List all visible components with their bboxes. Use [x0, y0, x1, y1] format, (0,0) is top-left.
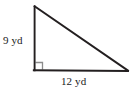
triangle-side-horizontal-leg	[34, 70, 128, 71]
dimension-label-horizontal-leg: 12 yd	[61, 75, 86, 87]
right-angle-marker-icon	[36, 63, 43, 70]
triangle-side-hypotenuse	[35, 6, 128, 70]
dimension-label-vertical-leg: 9 yd	[3, 34, 23, 46]
right-triangle-figure: 9 yd 12 yd	[0, 0, 132, 94]
